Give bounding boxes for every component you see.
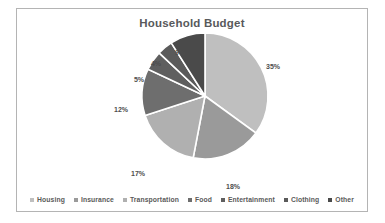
- legend-item[interactable]: Transportation: [123, 196, 179, 203]
- pie-slice-label: 18%: [226, 183, 240, 190]
- legend-item[interactable]: Insurance: [74, 196, 114, 203]
- legend-item-label: Housing: [37, 196, 65, 203]
- legend-item-label: Food: [195, 196, 212, 203]
- pie-plot-area: 35%18%17%12%5%4%9%: [17, 29, 369, 184]
- pie-slices-group: [142, 33, 268, 159]
- legend-swatch-icon: [74, 198, 78, 202]
- legend-swatch-icon: [284, 198, 288, 202]
- pie-slice-label: 9%: [175, 49, 185, 56]
- legend-item-label: Insurance: [81, 196, 114, 203]
- legend-swatch-icon: [328, 198, 332, 202]
- legend-item[interactable]: Housing: [30, 196, 65, 203]
- pie-slice-label: 4%: [151, 60, 161, 67]
- pie-slice-label: 35%: [266, 63, 280, 70]
- chart-legend: HousingInsuranceTransportationFoodEntert…: [17, 196, 367, 203]
- chart-title: Household Budget: [17, 17, 367, 29]
- legend-swatch-icon: [30, 198, 34, 202]
- legend-item-label: Entertainment: [228, 196, 275, 203]
- pie-slice-label: 17%: [131, 170, 145, 177]
- legend-item-label: Clothing: [291, 196, 319, 203]
- pie-slice-label: 5%: [134, 76, 144, 83]
- legend-item[interactable]: Food: [188, 196, 212, 203]
- legend-swatch-icon: [221, 198, 225, 202]
- legend-item[interactable]: Entertainment: [221, 196, 275, 203]
- legend-item-label: Transportation: [130, 196, 179, 203]
- legend-item[interactable]: Clothing: [284, 196, 319, 203]
- legend-swatch-icon: [123, 198, 127, 202]
- pie-chart-svg: [17, 29, 369, 184]
- legend-swatch-icon: [188, 198, 192, 202]
- pie-slice-label: 12%: [114, 106, 128, 113]
- legend-item[interactable]: Other: [328, 196, 354, 203]
- legend-item-label: Other: [335, 196, 354, 203]
- chart-frame: Household Budget 35%18%17%12%5%4%9% Hous…: [16, 8, 368, 212]
